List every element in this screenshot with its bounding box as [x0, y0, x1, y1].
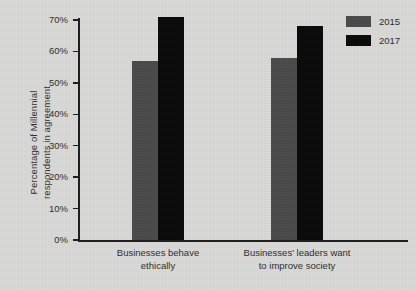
y-axis-tick-label: 40% — [8, 109, 68, 119]
y-axis-tick-label: 60% — [8, 46, 68, 56]
bar-2015-group-1 — [132, 61, 158, 240]
y-axis-tick-label: 30% — [8, 141, 68, 151]
bar-2017-group-1 — [158, 17, 184, 240]
legend-item-2015: 2015 — [346, 12, 400, 31]
y-axis-tick-label: 0% — [8, 235, 68, 245]
x-axis-line — [78, 240, 408, 242]
bar-2015-group-2 — [271, 58, 297, 240]
x-axis-category-label-line: Businesses' leaders want — [212, 247, 382, 260]
bar-2017-group-2 — [297, 26, 323, 240]
y-axis-tick-label: 70% — [8, 15, 68, 25]
legend-swatch-2017 — [346, 35, 371, 46]
legend: 20152017 — [346, 12, 400, 50]
bar-chart: Percentage of Millennial respondents in … — [0, 0, 416, 290]
y-axis-tick-label: 50% — [8, 78, 68, 88]
x-axis-category-label: Businesses' leaders wantto improve socie… — [212, 247, 382, 272]
x-axis-category-label-line: to improve society — [212, 260, 382, 273]
y-axis-tick-label: 20% — [8, 172, 68, 182]
legend-swatch-2015 — [346, 16, 371, 27]
legend-item-2017: 2017 — [346, 31, 400, 50]
legend-label-2017: 2017 — [379, 36, 400, 46]
y-axis-tick-label: 10% — [8, 204, 68, 214]
plot-area — [78, 20, 408, 240]
legend-label-2015: 2015 — [379, 17, 400, 27]
